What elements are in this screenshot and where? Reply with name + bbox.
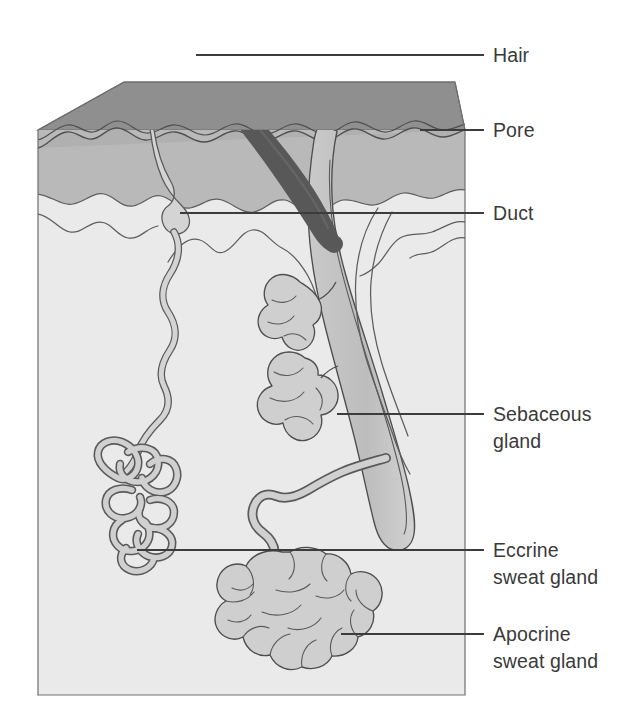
label-text-apocrine-sweat-gland-line1: Apocrine <box>493 623 571 645</box>
label-text-pore: Pore <box>493 119 535 141</box>
label-text-apocrine-sweat-gland-line2: sweat gland <box>493 650 598 672</box>
label-hair[interactable]: Hair <box>196 44 530 66</box>
label-text-duct: Duct <box>493 202 534 224</box>
label-text-sebaceous-gland-line1: Sebaceous <box>493 403 592 425</box>
label-text-eccrine-sweat-gland-line2: sweat gland <box>493 566 598 588</box>
skin-cross-section-svg: Hair Pore Duct Sebaceous gland Eccrine s… <box>0 0 624 722</box>
label-text-hair: Hair <box>493 44 530 66</box>
label-text-sebaceous-gland-line2: gland <box>493 430 541 452</box>
skin-top-surface <box>38 82 465 130</box>
skin-diagram-figure: Hair Pore Duct Sebaceous gland Eccrine s… <box>0 0 624 722</box>
label-text-eccrine-sweat-gland-line1: Eccrine <box>493 539 559 561</box>
